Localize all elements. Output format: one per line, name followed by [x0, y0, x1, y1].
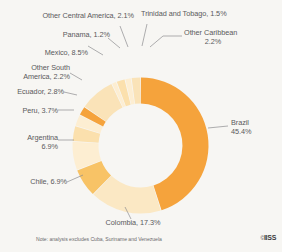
slice-label-mexico: Mexico, 8.5%: [6, 49, 88, 58]
leader-line-trinidad: [142, 24, 147, 46]
leader-line-mexico: [88, 46, 103, 55]
iiss-logo: ©IISS: [260, 234, 276, 241]
slice-label-colombia: Colombia, 17.3%: [88, 219, 178, 228]
leader-line-ecuador: [64, 92, 77, 95]
slice-label-other-south-america-line2: America, 2.2%: [2, 73, 70, 82]
slice-label-argentina-line2: 6.9%: [2, 143, 58, 152]
slice-label-other-central-america: Other Central America, 2.1%: [6, 12, 134, 21]
slice-label-other-caribbean-line1: Other Caribbean: [184, 29, 280, 38]
chart-footnote: Note: analysis excludes Cuba, Suriname a…: [36, 236, 162, 242]
leader-line-other-south-america: [70, 73, 82, 80]
leader-line-other-central-america: [120, 26, 128, 47]
donut-slices-group: [72, 78, 208, 214]
logo-text: IISS: [264, 234, 276, 241]
slice-label-chile: Chile, 6.9%: [2, 178, 67, 187]
slice-label-panama: Panama, 1.2%: [6, 31, 110, 40]
slice-label-trinidad-and-tobago: Trinidad and Tobago, 1.5%: [141, 10, 281, 19]
leader-line-chile: [67, 175, 83, 182]
slice-label-ecuador: Ecuador, 2.8%: [2, 88, 64, 97]
leader-line-brazil: [208, 126, 228, 128]
slice-label-other-caribbean-line2: 2.2%: [184, 38, 242, 47]
leader-line-other-caribbean: [150, 36, 182, 47]
slice-label-peru: Peru, 3.7%: [2, 107, 58, 116]
donut-chart-figure: Other Central America, 2.1% Panama, 1.2%…: [0, 0, 282, 252]
slice-label-brazil-line2: 45.4%: [231, 128, 281, 137]
